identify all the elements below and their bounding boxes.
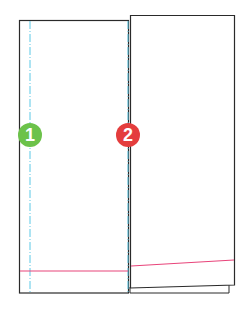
step-badge-1: 1 bbox=[18, 123, 42, 147]
right-panel bbox=[131, 16, 235, 289]
left-panel bbox=[20, 21, 129, 294]
step-badge-2: 2 bbox=[116, 123, 140, 147]
folding-diagram bbox=[0, 0, 247, 311]
